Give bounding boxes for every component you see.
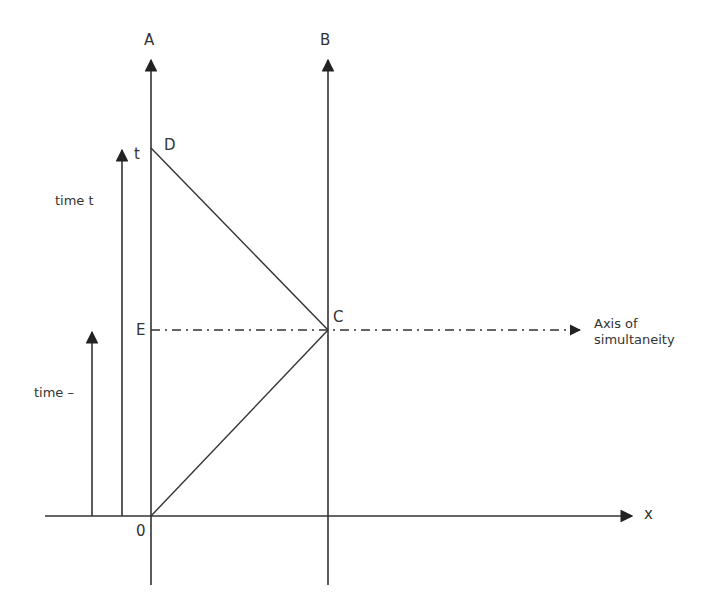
axis-label-line2: simultaneity	[594, 332, 675, 348]
light-ray-back	[151, 148, 328, 330]
label-b: B	[320, 33, 330, 48]
label-e: E	[136, 323, 145, 338]
label-time-minus: time –	[34, 385, 74, 401]
label-d: D	[164, 138, 176, 153]
axis-label-line1: Axis of	[594, 316, 675, 332]
spacetime-diagram	[0, 0, 709, 611]
light-ray-out	[151, 330, 328, 516]
label-axis-of-simultaneity: Axis of simultaneity	[594, 316, 675, 349]
label-origin: 0	[136, 524, 146, 539]
label-c: C	[333, 310, 343, 325]
label-time-t: time t	[55, 193, 94, 209]
label-t: t	[134, 147, 140, 162]
label-a: A	[144, 33, 154, 48]
label-x: x	[644, 507, 653, 522]
